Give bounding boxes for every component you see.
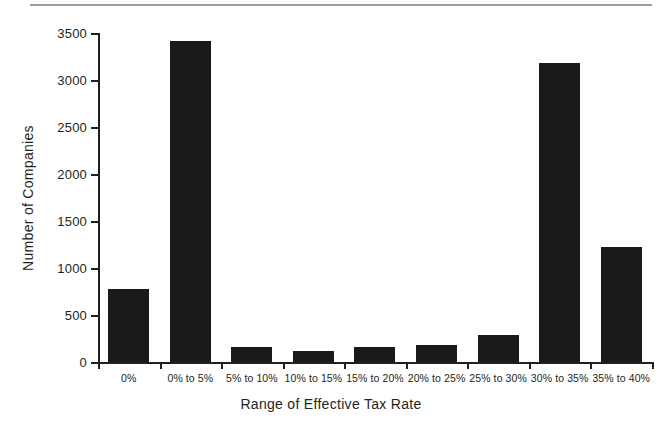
bar: [601, 247, 642, 362]
x-axis-tick-mark: [652, 362, 654, 369]
y-axis-tick-mark: [91, 268, 98, 270]
y-axis-tick-label: 1500: [57, 214, 87, 229]
x-axis-tick-mark: [160, 362, 162, 369]
bar-slot: [221, 33, 283, 362]
y-axis-tick-mark: [91, 174, 98, 176]
y-axis-tick-mark: [91, 362, 98, 364]
y-axis-tick-label: 2000: [57, 167, 87, 182]
x-axis-tick-mark: [98, 362, 100, 369]
x-axis-tick-label: 5% to 10%: [221, 372, 283, 384]
x-axis-tick-mark: [283, 362, 285, 369]
bar-slot: [529, 33, 591, 362]
x-axis-tick-mark: [344, 362, 346, 369]
x-axis-tick-label: 0%: [98, 372, 160, 384]
bar: [108, 289, 149, 362]
y-axis-tick-mark: [91, 221, 98, 223]
x-axis-tick-label: 20% to 25%: [406, 372, 468, 384]
bar: [293, 351, 334, 362]
bar-slot: [344, 33, 406, 362]
y-axis-tick-mark: [91, 127, 98, 129]
bar-slot: [467, 33, 529, 362]
bar: [354, 347, 395, 363]
y-axis-tick-label: 0: [80, 355, 87, 370]
x-axis-tick-label: 0% to 5%: [160, 372, 222, 384]
x-axis-tick-mark: [590, 362, 592, 369]
x-axis-tick-label: 35% to 40%: [590, 372, 652, 384]
x-axis-tick-label: 25% to 30%: [467, 372, 529, 384]
y-axis-tick-mark: [91, 80, 98, 82]
bar-slot: [590, 33, 652, 362]
y-axis-tick-label: 1000: [57, 261, 87, 276]
y-axis-tick-label: 3000: [57, 73, 87, 88]
bar-slot: [160, 33, 222, 362]
bar: [478, 335, 519, 362]
x-axis-title: Range of Effective Tax Rate: [0, 396, 662, 412]
bar: [539, 63, 580, 362]
x-axis-tick-label: 10% to 15%: [283, 372, 345, 384]
y-axis-tick-mark: [91, 33, 98, 35]
x-axis-tick-mark: [406, 362, 408, 369]
x-axis-tick-mark: [529, 362, 531, 369]
x-axis-line: [98, 362, 652, 364]
bar-slot: [406, 33, 468, 362]
x-axis-tick-label: 15% to 20%: [344, 372, 406, 384]
y-axis-title: Number of Companies: [18, 33, 38, 362]
y-axis-tick-label: 2500: [57, 120, 87, 135]
plot-area: 0500100015002000250030003500: [98, 33, 652, 362]
y-axis-title-label: Number of Companies: [20, 125, 36, 271]
y-axis-tick-label: 500: [65, 308, 87, 323]
top-divider-rule: [30, 4, 652, 6]
y-axis-tick-label: 3500: [57, 26, 87, 41]
bar-slot: [283, 33, 345, 362]
x-axis-tick-mark: [221, 362, 223, 369]
x-axis-tick-label: 30% to 35%: [529, 372, 591, 384]
bar-chart-figure: Number of Companies 05001000150020002500…: [0, 0, 662, 432]
x-axis-tick-mark: [467, 362, 469, 369]
bar: [231, 347, 272, 362]
bar: [416, 345, 457, 362]
bar-slot: [98, 33, 160, 362]
y-axis-tick-mark: [91, 315, 98, 317]
bar: [170, 41, 211, 362]
